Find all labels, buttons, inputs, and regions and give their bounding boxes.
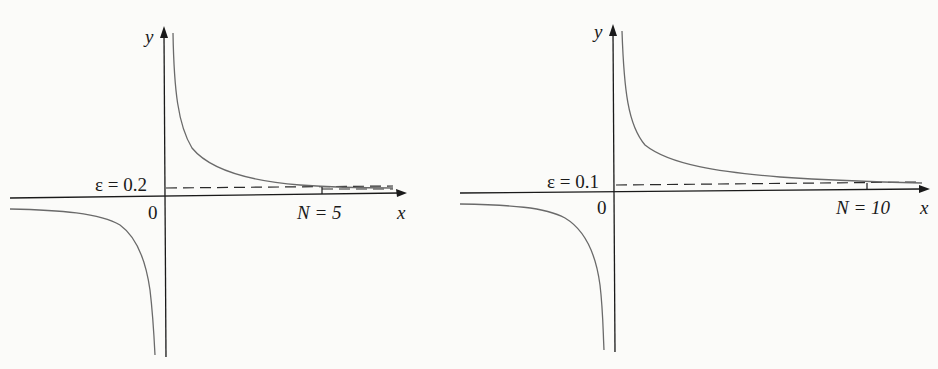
x-axis <box>460 189 920 193</box>
y-axis-label: y <box>145 27 153 46</box>
figure-epsilon-0-2: y ε = 0.2 0 N = 5 x <box>0 0 460 369</box>
curve-negative-branch <box>460 204 604 350</box>
x-axis <box>10 193 400 198</box>
curve-positive-branch <box>622 31 922 183</box>
x-axis-arrow-icon <box>919 185 930 193</box>
y-axis-arrow-icon <box>609 24 617 36</box>
x-axis-label: x <box>920 198 928 217</box>
origin-label: 0 <box>597 198 607 217</box>
N-label: N = 10 <box>836 198 890 217</box>
y-axis-label: y <box>594 22 602 41</box>
epsilon-label: ε = 0.2 <box>95 175 147 194</box>
x-axis-label: x <box>397 203 405 222</box>
figure-epsilon-0-1: y ε = 0.1 0 N = 10 x <box>460 0 938 369</box>
x-axis-arrow-icon <box>396 189 407 197</box>
y-axis-arrow-icon <box>160 26 168 38</box>
curve-negative-branch <box>10 209 155 355</box>
curve-positive-branch <box>173 33 393 188</box>
origin-label: 0 <box>148 203 158 222</box>
epsilon-label: ε = 0.1 <box>547 172 599 191</box>
plot-right <box>460 0 938 369</box>
plot-left <box>0 0 460 369</box>
N-label: N = 5 <box>297 203 342 222</box>
epsilon-dashed-line <box>616 182 922 185</box>
